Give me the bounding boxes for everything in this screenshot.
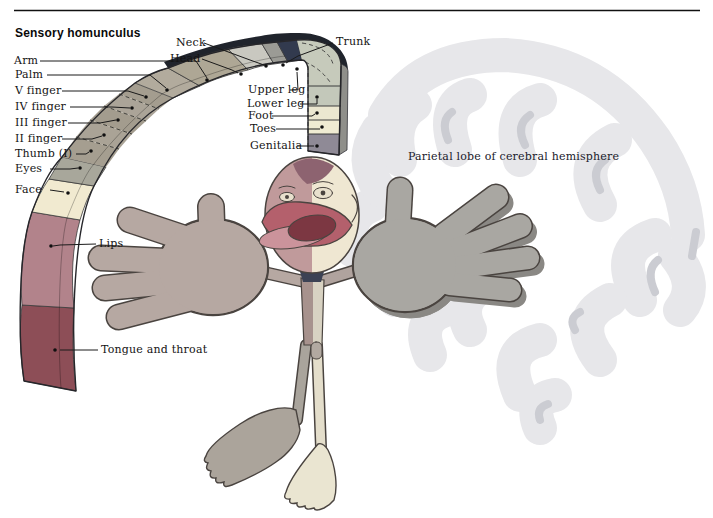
label-thumb-i: Thumb (I)	[15, 148, 72, 160]
label-trunk: Trunk	[336, 36, 370, 48]
head	[258, 157, 359, 273]
label-iii-finger: III finger	[15, 117, 67, 129]
diagram-canvas	[0, 0, 713, 518]
label-genitalia: Genitalia	[250, 140, 302, 152]
right-leg-fill	[317, 345, 321, 448]
label-eyes: Eyes	[15, 163, 42, 175]
diagram-root: Sensory homunculus Arm Palm V finger IV …	[0, 0, 713, 518]
segment-tongue	[20, 305, 76, 391]
label-arm: Arm	[14, 55, 38, 67]
segment-lowerleg	[308, 86, 341, 106]
segment-toesseg	[308, 120, 340, 134]
genital-shape	[311, 342, 322, 359]
left-foot	[204, 408, 300, 486]
label-palm: Palm	[15, 69, 43, 81]
right-foot	[285, 444, 336, 510]
left-leg-fill	[297, 345, 306, 420]
label-foot: Foot	[248, 110, 274, 122]
label-upper-leg: Upper leg	[248, 84, 306, 96]
label-iv-finger: IV finger	[15, 101, 66, 113]
label-parietal-lobe: Parietal lobe of cerebral hemisphere	[408, 150, 619, 163]
segment-lips	[21, 212, 80, 308]
page-title: Sensory homunculus	[15, 26, 141, 40]
label-neck: Neck	[176, 37, 206, 49]
label-ii-finger: II finger	[15, 133, 62, 145]
segment-footseg	[308, 106, 341, 120]
label-head: Head	[170, 53, 201, 65]
left-hand	[101, 207, 268, 317]
label-face: Face	[15, 184, 42, 196]
label-tongue-and-throat: Tongue and throat	[101, 344, 207, 356]
label-v-finger: V finger	[15, 85, 62, 97]
label-lips: Lips	[99, 238, 123, 250]
label-toes: Toes	[250, 123, 276, 135]
